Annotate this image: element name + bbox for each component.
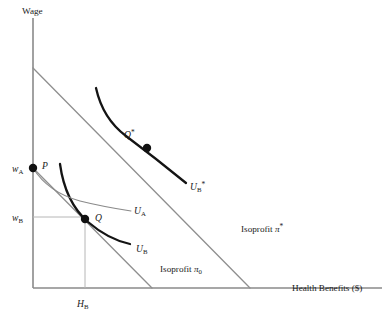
plot-canvas: Wage Health Benefits ($) P Q Q* wA wB HB (0, 0, 382, 314)
point-q-star-label-superscript: * (131, 128, 135, 137)
svg-text:UB: UB (136, 243, 148, 255)
isoprofit-pi-star-line (33, 68, 250, 288)
curve-ub-star (96, 88, 186, 183)
svg-text:Isoprofit π*: Isoprofit π* (241, 222, 284, 234)
tick-label-hb-subscript: B (84, 303, 89, 310)
guide-lines-group (33, 217, 85, 288)
svg-text:Q*: Q* (124, 128, 135, 140)
svg-text:UB*: UB* (190, 180, 205, 193)
curve-ua (33, 168, 131, 211)
economics-diagram: Wage Health Benefits ($) P Q Q* wA wB HB (0, 0, 382, 314)
point-p-label: P (41, 160, 48, 171)
point-q-label: Q (95, 212, 102, 223)
tick-label-hb: HB (76, 298, 89, 310)
tick-label-wa-subscript: A (18, 168, 23, 175)
tick-label-wa: wA (12, 163, 23, 175)
curve-label-ua-subscript: A (141, 210, 146, 217)
point-p-dot[interactable] (29, 164, 37, 172)
point-q-star-label: Q* (124, 128, 135, 140)
svg-text:Isoprofit π0: Isoprofit π0 (160, 264, 203, 275)
y-axis-label: Wage (22, 6, 43, 16)
points-group (29, 144, 151, 223)
curve-label-ub-star: UB* (190, 180, 205, 193)
indifference-curves-group (33, 88, 186, 244)
isoprofit-label-pi-zero-text: Isoprofit (160, 264, 192, 274)
isoprofit-label-pi-zero: Isoprofit π0 (160, 264, 203, 275)
isoprofit-label-pi-star-superscript: * (280, 222, 284, 231)
svg-text:HB: HB (76, 298, 89, 310)
curve-label-ua: UA (134, 205, 146, 217)
isoprofit-pi-zero-line (33, 168, 152, 288)
isoprofit-label-pi-star: Isoprofit π* (241, 222, 284, 234)
isoprofit-lines-group (33, 68, 250, 288)
point-q-star-label-base: Q (124, 129, 131, 140)
svg-text:wB: wB (12, 212, 23, 224)
svg-text:UA: UA (134, 205, 146, 217)
svg-text:wA: wA (12, 163, 23, 175)
x-axis-label: Health Benefits ($) (292, 283, 362, 293)
tick-label-wb-subscript: B (18, 217, 23, 224)
curve-label-ub-star-superscript: * (201, 180, 205, 189)
isoprofit-label-pi-star-text: Isoprofit (241, 224, 273, 234)
curve-label-ub-subscript: B (143, 248, 148, 255)
tick-label-wb: wB (12, 212, 23, 224)
point-q-dot[interactable] (81, 215, 89, 223)
isoprofit-label-pi-zero-subscript: 0 (199, 268, 203, 275)
point-q-star-dot[interactable] (143, 144, 151, 152)
curve-label-ub: UB (136, 243, 148, 255)
